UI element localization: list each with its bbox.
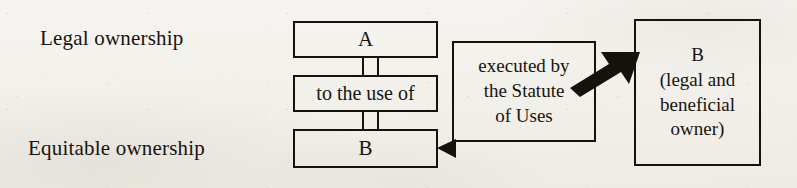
label-equitable-ownership: Equitable ownership xyxy=(28,138,205,159)
node-final-owner-b: B (legal and beneficial owner) xyxy=(634,19,761,166)
node-use-clause: to the use of xyxy=(293,75,438,112)
node-statute-of-uses-text: executed by the Statute of Uses xyxy=(478,54,569,128)
node-final-owner-b-text: B (legal and beneficial owner) xyxy=(660,43,735,142)
connector-a-to-use-rail-left xyxy=(362,57,364,76)
node-statute-of-uses: executed by the Statute of Uses xyxy=(452,41,596,142)
node-grantee-a-text: A xyxy=(358,28,373,51)
connector-use-to-b-rail-right xyxy=(377,111,379,130)
connector-use-to-b-rail-left xyxy=(362,111,364,130)
node-beneficiary-b-text: B xyxy=(358,137,372,160)
connector-a-to-use-rail-right xyxy=(377,57,379,76)
node-grantee-a: A xyxy=(293,21,438,58)
node-beneficiary-b: B xyxy=(293,129,438,168)
diagram-canvas: Legal ownership Equitable ownership A to… xyxy=(0,0,797,188)
node-use-clause-text: to the use of xyxy=(316,83,414,105)
label-legal-ownership: Legal ownership xyxy=(40,28,184,49)
